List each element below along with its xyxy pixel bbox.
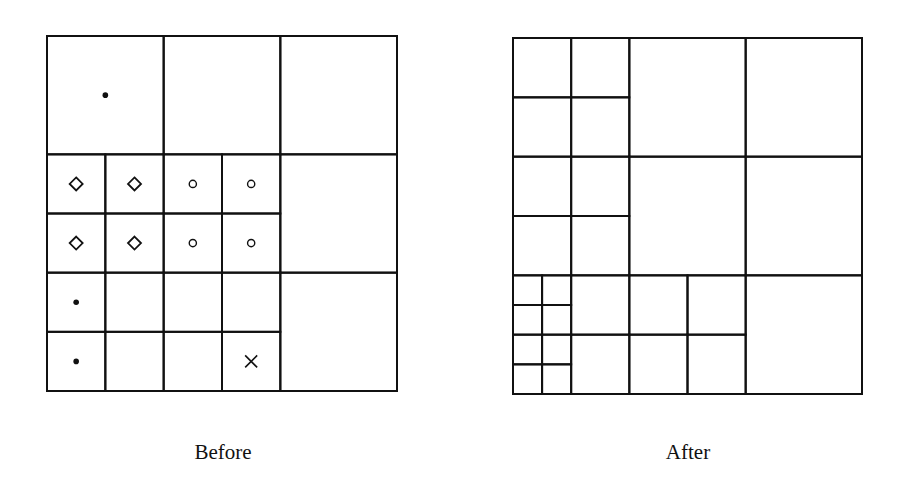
grid-cell [47, 154, 105, 213]
grid-cell [164, 214, 222, 273]
grid-cell [571, 38, 629, 97]
grid-cell [105, 332, 163, 391]
after-grid [513, 38, 862, 394]
grid-cell [542, 335, 571, 365]
circle-marker-icon [189, 180, 196, 187]
grid-cell [571, 275, 629, 334]
grid-cell [513, 157, 571, 216]
circle-marker-icon [248, 180, 255, 187]
grid-cell [571, 97, 629, 156]
grid-cell [280, 273, 397, 391]
grid-cell [280, 36, 397, 154]
grid-cell [513, 335, 542, 365]
before-caption: Before [123, 440, 323, 465]
grid-cell [222, 154, 280, 213]
grid-cell [222, 214, 280, 273]
grid-cell [164, 273, 222, 332]
diamond-marker-icon [70, 177, 83, 190]
before-grid [47, 36, 397, 391]
circle-marker-icon [189, 239, 196, 246]
grid-cell [542, 275, 571, 305]
grid-cell [47, 214, 105, 273]
grid-cell [746, 275, 862, 394]
dot-marker-icon [103, 92, 109, 98]
grid-cell [105, 154, 163, 213]
grid-cell [542, 364, 571, 394]
grid-cell [105, 214, 163, 273]
grid-cell [105, 273, 163, 332]
grid-cell [629, 335, 687, 394]
grid-cell [513, 97, 571, 156]
grid-cell [164, 36, 281, 154]
grid-cell [280, 154, 397, 272]
grid-cell [222, 273, 280, 332]
grid-cell [513, 364, 542, 394]
grid-cell [513, 216, 571, 275]
grid-cell [629, 38, 745, 157]
grid-cell [164, 154, 222, 213]
grid-cell [629, 275, 687, 334]
grid-cell [571, 335, 629, 394]
circle-marker-icon [248, 239, 255, 246]
cross-marker-icon [245, 355, 257, 367]
after-caption: After [588, 440, 788, 465]
diamond-marker-icon [128, 177, 141, 190]
grid-cell [542, 305, 571, 335]
grid-cell [746, 157, 862, 276]
grid-cell [629, 157, 745, 276]
grid-cell [746, 38, 862, 157]
grid-cell [571, 216, 629, 275]
diamond-marker-icon [70, 237, 83, 250]
grid-cell [688, 275, 746, 334]
grid-cell [513, 275, 542, 305]
dot-marker-icon [73, 359, 79, 365]
diamond-marker-icon [128, 237, 141, 250]
dot-marker-icon [73, 299, 79, 305]
quadtree-figure [0, 0, 898, 496]
grid-cell [571, 157, 629, 216]
grid-cell [513, 38, 571, 97]
grid-cell [688, 335, 746, 394]
grid-cell [164, 332, 222, 391]
grid-cell [513, 305, 542, 335]
